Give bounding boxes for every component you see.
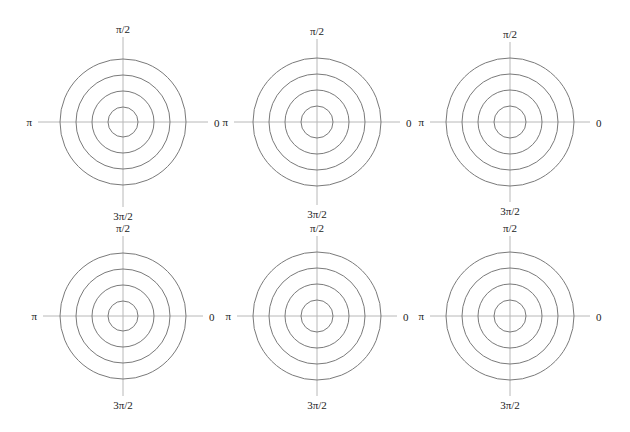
angle-label-right: 0 — [209, 311, 215, 323]
angle-label-top: π/2 — [503, 222, 517, 234]
angle-label-bottom: 3π/2 — [307, 208, 327, 220]
angle-label-top: π/2 — [116, 23, 130, 35]
angle-label-right: 0 — [596, 311, 602, 323]
angle-label-bottom: 3π/2 — [113, 399, 133, 411]
angle-label-right: 0 — [214, 117, 220, 129]
angle-label-top: π/2 — [116, 222, 130, 234]
angle-label-right: 0 — [403, 311, 409, 323]
angle-label-top: π/2 — [310, 222, 324, 234]
polar-panel-6 — [430, 236, 590, 396]
angle-label-top: π/2 — [503, 28, 517, 40]
angle-label-left: π — [418, 310, 424, 322]
angle-label-bottom: 3π/2 — [307, 399, 327, 411]
angle-label-right: 0 — [406, 117, 412, 129]
angle-label-left: π — [26, 116, 32, 128]
angle-label-left: π — [31, 310, 37, 322]
polar-panel-3 — [430, 42, 590, 202]
angle-label-right: 0 — [596, 117, 602, 129]
angle-label-top: π/2 — [310, 25, 324, 37]
angle-label-bottom: 3π/2 — [500, 399, 520, 411]
angle-label-left: π — [225, 310, 231, 322]
polar-panel-5 — [237, 236, 397, 396]
angle-label-bottom: 3π/2 — [113, 210, 133, 222]
angle-label-bottom: 3π/2 — [500, 205, 520, 217]
polar-panel-2 — [234, 39, 400, 205]
angle-label-left: π — [418, 116, 424, 128]
polar-panel-4 — [43, 236, 203, 396]
polar-panel-1 — [38, 37, 208, 207]
angle-label-left: π — [222, 116, 228, 128]
